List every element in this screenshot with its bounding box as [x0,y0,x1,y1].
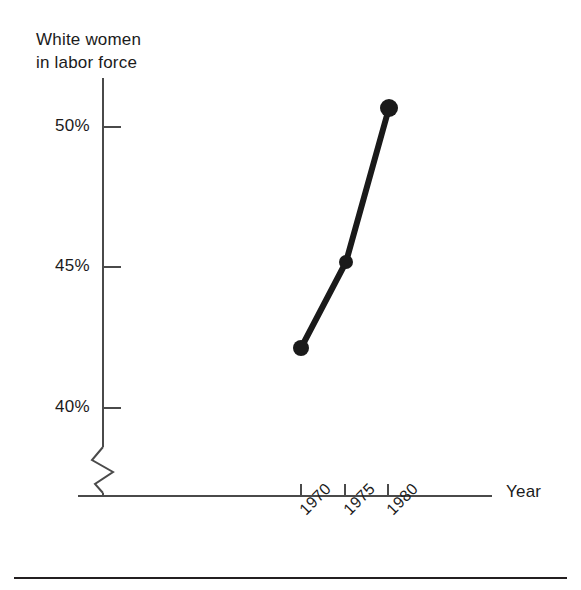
data-point-1970 [293,340,309,356]
data-point-1980 [380,99,398,117]
y-axis-label-50: 50% [20,116,90,136]
data-line-series-1 [301,108,389,348]
y-axis-label-40: 40% [20,397,90,417]
bottom-divider [14,577,567,579]
chart-title-line-2: in labor force [36,53,137,72]
chart-title-line-1: White women [36,30,141,49]
line-chart-canvas [0,0,581,590]
data-point-1975 [339,255,353,269]
chart-figure: White womenin labor force 50% 45% 40% 19… [0,0,581,590]
x-axis-title: Year [506,481,541,504]
y-axis-label-45: 45% [20,256,90,276]
y-axis-break-icon [92,447,113,493]
chart-title: White womenin labor force [36,29,141,75]
